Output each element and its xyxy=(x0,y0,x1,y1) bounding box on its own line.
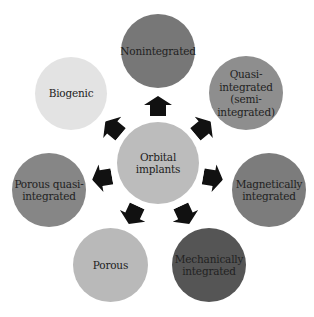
node-label: Nonintegrated xyxy=(120,45,195,58)
node-label-line: (semi- xyxy=(230,93,261,105)
node-label-line: Porous quasi- xyxy=(14,178,83,190)
node-label-line: integrated xyxy=(219,81,273,93)
node-nonintegrated: Nonintegrated xyxy=(121,14,195,88)
node-magnetically-integrated: Magneticallyintegrated xyxy=(232,153,306,227)
orbital-implants-diagram: Orbitalimplants Nonintegrated Quasi-inte… xyxy=(0,0,314,317)
node-quasi-integrated: Quasi-integrated(semi-integrated) xyxy=(209,56,283,130)
node-label-line: integrated) xyxy=(217,106,275,118)
node-porous: Porous xyxy=(73,228,148,302)
node-label-line: integrated xyxy=(182,265,236,277)
center-node-orbital-implants: Orbitalimplants xyxy=(117,122,199,204)
center-label-line2: implants xyxy=(136,163,180,175)
node-porous-quasi-integrated: Porous quasi-integrated xyxy=(12,153,86,227)
node-label: Biogenic xyxy=(49,87,94,100)
node-mechanically-integrated: Mechanicallyintegrated xyxy=(172,228,246,302)
node-label-line: Mechanically xyxy=(175,253,243,265)
node-biogenic: Biogenic xyxy=(35,57,107,130)
node-label: Porous xyxy=(93,259,128,272)
node-label-line: Magnetically xyxy=(236,178,303,190)
node-label-line: integrated xyxy=(22,190,76,202)
node-label-line: integrated xyxy=(242,190,296,202)
center-label-line1: Orbital xyxy=(140,151,176,163)
node-label-line: Quasi- xyxy=(230,68,263,80)
